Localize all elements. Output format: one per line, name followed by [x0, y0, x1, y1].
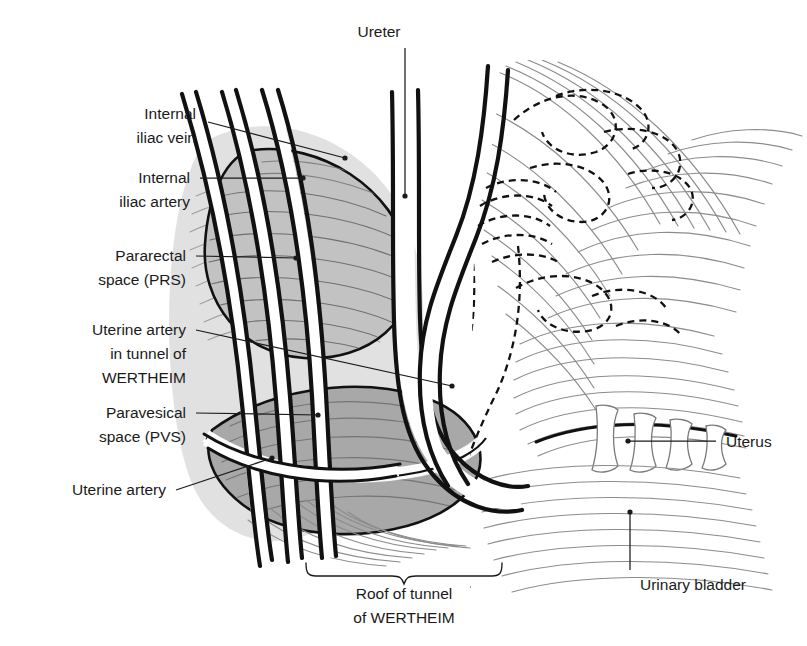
label-internal-iliac-artery-line1: Internal [138, 169, 190, 186]
label-roof-of-tunnel-line2: of WERTHEIM [353, 609, 454, 626]
label-urinary-bladder: Urinary bladder [640, 576, 746, 593]
label-internal-iliac-vein-line2: iliac vein [137, 129, 196, 146]
label-ureter: Ureter [357, 23, 400, 40]
label-uterine-artery-tunnel-line2: in tunnel of [110, 345, 187, 362]
label-uterine-artery: Uterine artery [72, 481, 166, 498]
label-pararectal-space-line2: space (PRS) [98, 271, 186, 288]
label-uterus: Uterus [726, 433, 772, 450]
anatomical-figure: Ureter Internal iliac vein Internal ilia… [0, 0, 807, 646]
label-internal-iliac-artery-line2: iliac artery [119, 193, 190, 210]
label-internal-iliac-vein-line1: Internal [144, 105, 196, 122]
label-pararectal-space-line1: Pararectal [115, 247, 186, 264]
anatomy-illustration: Ureter Internal iliac vein Internal ilia… [0, 0, 807, 646]
label-roof-of-tunnel-line1: Roof of tunnel [356, 585, 453, 602]
label-uterine-artery-tunnel-line3: WERTHEIM [102, 369, 186, 386]
label-uterine-artery-tunnel-line1: Uterine artery [92, 321, 186, 338]
label-paravesical-space-line2: space (PVS) [99, 428, 186, 445]
label-paravesical-space-line1: Paravesical [106, 404, 186, 421]
